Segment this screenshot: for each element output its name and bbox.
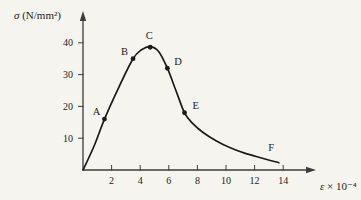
data-point-A	[102, 117, 107, 122]
point-label-C: C	[146, 30, 153, 41]
x-tick-label: 8	[195, 175, 200, 186]
point-label-E: E	[193, 100, 199, 111]
stress-strain-chart: σ (N/mm²) ε × 10⁻⁴ 246810121410203040 AB…	[0, 0, 361, 200]
y-axis-units: (N/mm²)	[19, 9, 61, 22]
x-axis-arrowhead-icon	[306, 167, 316, 173]
x-tick-label: 14	[278, 175, 288, 186]
data-point-D	[165, 66, 170, 71]
x-tick-label: 4	[138, 175, 143, 186]
axes-layer: 246810121410203040	[63, 11, 316, 186]
x-tick-label: 10	[221, 175, 231, 186]
data-point-C	[148, 45, 153, 50]
y-axis-title: σ (N/mm²)	[14, 9, 61, 22]
point-label-F: F	[268, 142, 274, 153]
y-tick-label: 10	[63, 133, 73, 144]
x-tick-label: 12	[250, 175, 260, 186]
y-axis-arrowhead-icon	[80, 11, 86, 21]
data-point-E	[182, 110, 187, 115]
x-tick-label: 6	[166, 175, 171, 186]
y-tick-label: 30	[63, 69, 73, 80]
x-tick-label: 2	[109, 175, 114, 186]
data-point-B	[131, 56, 136, 61]
points-layer: ABCDEF	[93, 30, 274, 153]
x-axis-title: ε × 10⁻⁴	[320, 180, 357, 192]
x-axis-scale-factor: × 10⁻⁴	[324, 180, 357, 192]
point-label-B: B	[121, 46, 128, 57]
y-tick-label: 40	[63, 37, 73, 48]
point-label-A: A	[93, 106, 101, 117]
stress-strain-figure: σ (N/mm²) ε × 10⁻⁴ 246810121410203040 AB…	[0, 0, 361, 200]
point-label-D: D	[174, 56, 182, 67]
y-tick-label: 20	[63, 101, 73, 112]
